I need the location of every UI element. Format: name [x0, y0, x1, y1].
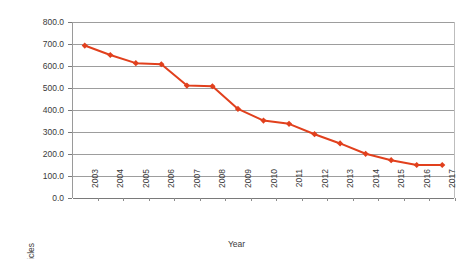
x-tick-label: 2010 — [269, 169, 279, 203]
x-axis-title: Year — [0, 239, 473, 249]
x-tick-mark — [123, 198, 124, 201]
x-tick-label: 2014 — [371, 169, 381, 203]
x-tick-mark — [149, 198, 150, 201]
x-tick-mark — [404, 198, 405, 201]
x-tick-mark — [353, 198, 354, 201]
x-tick-label: 2016 — [422, 169, 432, 203]
line-chart: Number of fatalities for 1 mln. vehicles… — [0, 0, 473, 259]
x-tick-mark — [327, 198, 328, 201]
x-tick-mark — [455, 198, 456, 201]
x-tick-mark — [98, 198, 99, 201]
x-axis-ticks: 2003200420052006200720082009201020112012… — [0, 0, 473, 259]
x-tick-mark — [174, 198, 175, 201]
x-tick-mark — [225, 198, 226, 201]
x-tick-mark — [200, 198, 201, 201]
x-tick-mark — [378, 198, 379, 201]
x-tick-mark — [302, 198, 303, 201]
x-tick-label: 2012 — [320, 169, 330, 203]
x-tick-mark — [251, 198, 252, 201]
x-tick-mark — [276, 198, 277, 201]
x-tick-mark — [429, 198, 430, 201]
